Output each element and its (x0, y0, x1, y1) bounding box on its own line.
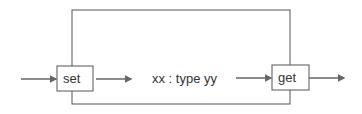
diagram-canvas (0, 0, 362, 114)
get-label: get (278, 71, 296, 84)
set-label: set (63, 72, 80, 85)
outer-container-box (72, 10, 290, 104)
center-label: xx : type yy (152, 72, 217, 85)
